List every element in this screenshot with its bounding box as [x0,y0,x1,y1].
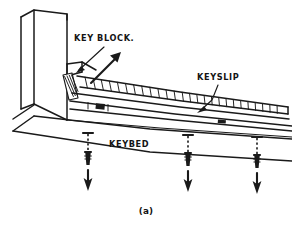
figure-caption: (a) [139,206,154,216]
screw-group-3 [252,137,262,194]
removal-direction-arrow [91,52,121,83]
label-key-block: KEY BLOCK. [74,33,134,43]
keyslip-diagram: KEY BLOCK. KEYSLIP KEYBED (a) [0,0,292,234]
label-keyslip: KEYSLIP [197,72,239,82]
label-keybed: KEYBED [109,139,149,149]
screw-group-2 [183,135,193,192]
figure-container: KEY BLOCK. KEYSLIP KEYBED (a) [0,0,292,234]
keyslip-segments [85,77,277,113]
dark-block [95,103,104,109]
key-block-leader [76,47,104,73]
hatched-end-section [63,73,78,100]
left-cheek-post [21,10,67,120]
